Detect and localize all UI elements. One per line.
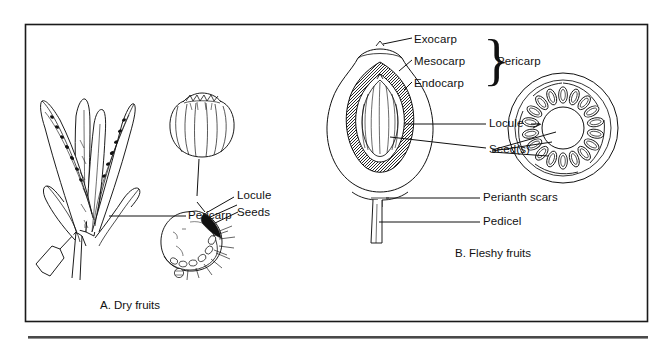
berry-cross-section xyxy=(508,73,618,183)
label-pericarp-fleshy: Pericarp xyxy=(497,56,541,68)
label-locule-dry: Locule xyxy=(237,190,272,202)
label-seeds-fleshy: Seed(s) xyxy=(489,144,530,156)
label-endocarp: Endocarp xyxy=(414,78,464,90)
label-locule-fleshy: Locule xyxy=(489,118,524,130)
label-exocarp: Exocarp xyxy=(414,34,457,46)
bottom-rule xyxy=(28,336,648,339)
caption-panel-b: B. Fleshy fruits xyxy=(455,248,531,260)
label-seeds-dry: Seeds xyxy=(237,207,270,219)
figure-drawing xyxy=(0,0,671,348)
caption-panel-a: A. Dry fruits xyxy=(100,300,160,312)
label-pedicel: Pedicel xyxy=(483,216,521,228)
figure-root: Pericarp Locule Seeds A. Dry fruits Exoc… xyxy=(0,0,671,348)
label-perianth-scars: Perianth scars xyxy=(483,192,558,204)
label-mesocarp: Mesocarp xyxy=(414,56,465,68)
label-pericarp-dry: Pericarp xyxy=(188,210,232,222)
